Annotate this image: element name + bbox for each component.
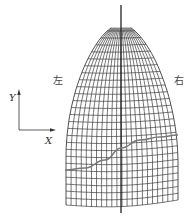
mesh-diagram: Y X 左 右 [0, 0, 193, 221]
mesh-column-line [117, 28, 121, 207]
wireframe-mesh [66, 28, 178, 207]
left-label: 左 [53, 74, 63, 86]
y-arrow-icon [17, 89, 20, 95]
axis-x-label: X [44, 135, 53, 146]
right-label: 右 [174, 74, 184, 86]
x-arrow-icon [50, 128, 56, 131]
xy-axis-indicator: Y X [9, 89, 56, 146]
axis-y-label: Y [9, 92, 17, 103]
